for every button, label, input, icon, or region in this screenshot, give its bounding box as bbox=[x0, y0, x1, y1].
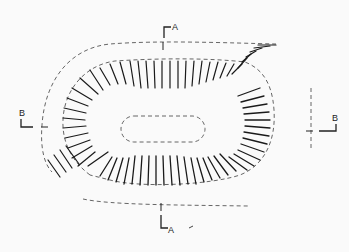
section-marker-a-top bbox=[164, 27, 171, 38]
stray-mark bbox=[189, 226, 193, 228]
dashed-contours bbox=[42, 42, 311, 206]
earthwork-diagram bbox=[0, 0, 349, 252]
section-label-a-bottom: A bbox=[168, 226, 174, 235]
hachures bbox=[48, 45, 276, 185]
section-label-b-left: B bbox=[19, 109, 25, 118]
section-marker-a-bottom bbox=[161, 215, 168, 228]
bottom-contour bbox=[83, 199, 248, 206]
section-marker-b-left bbox=[21, 119, 33, 127]
central-flat bbox=[121, 116, 205, 142]
section-label-b-right: B bbox=[332, 114, 338, 123]
section-label-a-top: A bbox=[172, 23, 178, 32]
section-marker-b-right bbox=[319, 124, 336, 131]
